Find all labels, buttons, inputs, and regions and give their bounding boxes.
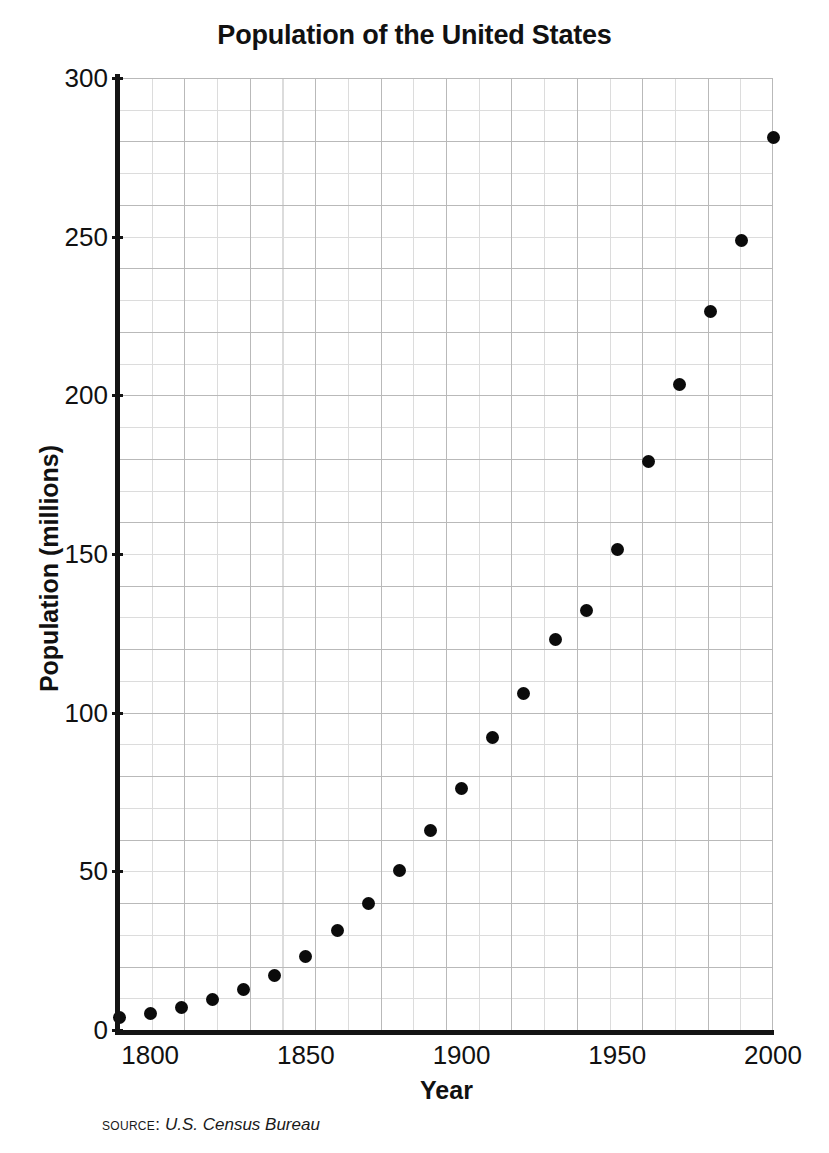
plot-area [119, 78, 773, 1030]
y-axis-tick-label: 0 [0, 1015, 108, 1046]
y-axis-tick-mark [112, 394, 123, 397]
x-axis-line [115, 1030, 774, 1035]
major-gridlines [119, 78, 773, 1030]
y-axis-tick-label: 300 [0, 63, 108, 94]
data-point [767, 131, 780, 144]
data-point [704, 305, 717, 318]
data-point [331, 924, 344, 937]
y-axis-tick-mark [112, 553, 123, 556]
y-axis-tick-mark [112, 77, 123, 80]
chart-title: Population of the United States [0, 20, 829, 51]
data-point [362, 897, 375, 910]
data-point [735, 234, 748, 247]
y-axis-tick-mark [112, 712, 123, 715]
x-axis-title: Year [119, 1076, 774, 1105]
data-point [237, 983, 250, 996]
data-point [175, 1001, 188, 1014]
x-axis-tick-label: 1850 [251, 1040, 361, 1071]
y-axis-tick-label: 250 [0, 221, 108, 252]
source-note: Source: U.S. Census Bureau [102, 1115, 320, 1135]
data-point [642, 455, 655, 468]
data-point [455, 782, 468, 795]
plot-right-border [772, 78, 773, 1030]
data-point [673, 378, 686, 391]
source-label: Source: [102, 1115, 160, 1134]
y-axis-tick-label: 50 [0, 856, 108, 887]
data-point [611, 543, 624, 556]
data-point [144, 1007, 157, 1020]
y-axis-title: Population (millions) [35, 289, 64, 849]
x-axis-tick-label: 1900 [407, 1040, 517, 1071]
data-point [486, 731, 499, 744]
x-axis-tick-label: 2000 [718, 1040, 828, 1071]
data-point [206, 993, 219, 1006]
data-point [299, 950, 312, 963]
x-axis-tick-label: 1800 [95, 1040, 205, 1071]
minor-gridlines [119, 78, 773, 1030]
x-axis-tick-label: 1950 [562, 1040, 672, 1071]
data-point [393, 864, 406, 877]
data-point [517, 687, 530, 700]
y-axis-tick-mark [112, 870, 123, 873]
source-value: U.S. Census Bureau [165, 1115, 320, 1134]
data-point [424, 824, 437, 837]
y-axis-tick-mark [112, 1029, 123, 1032]
data-point [580, 604, 593, 617]
y-axis-tick-mark [112, 236, 123, 239]
data-point [549, 633, 562, 646]
data-point [268, 969, 281, 982]
